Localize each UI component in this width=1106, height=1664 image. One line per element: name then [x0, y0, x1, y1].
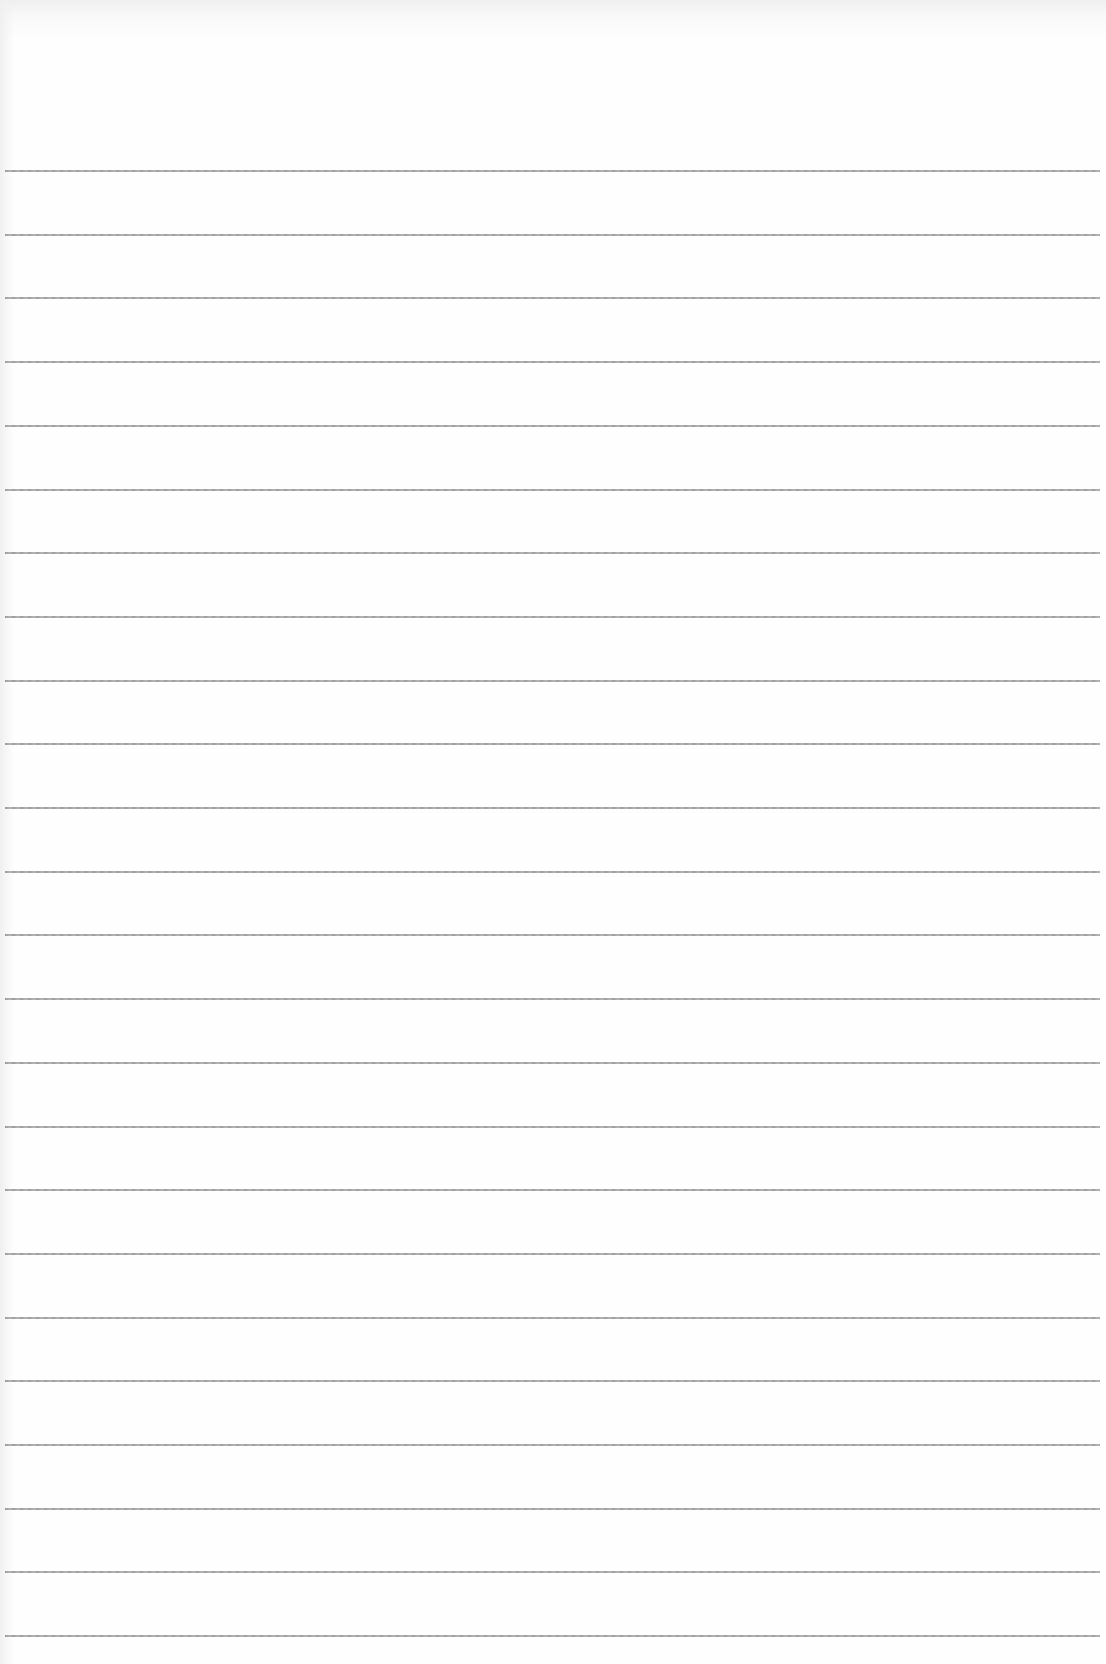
scan-top-shadow	[0, 0, 1106, 40]
scan-left-shadow	[0, 0, 14, 1664]
ruled-line	[5, 489, 1100, 491]
ruled-line	[5, 297, 1100, 299]
ruled-line	[5, 1253, 1100, 1255]
ruled-line	[5, 170, 1100, 172]
ruled-line	[5, 361, 1100, 363]
ruled-line	[5, 425, 1100, 427]
ruled-line	[5, 934, 1100, 936]
ruled-line	[5, 1380, 1100, 1382]
ruled-line	[5, 1126, 1100, 1128]
ruled-line	[5, 807, 1100, 809]
ruled-line	[5, 1444, 1100, 1446]
ruled-line	[5, 1062, 1100, 1064]
ruled-line	[5, 743, 1100, 745]
ruled-line	[5, 1508, 1100, 1510]
lined-paper-sheet	[0, 0, 1106, 1664]
ruled-line	[5, 616, 1100, 618]
ruled-line	[5, 1635, 1100, 1637]
ruled-line	[5, 1189, 1100, 1191]
ruled-line	[5, 552, 1100, 554]
ruled-line	[5, 871, 1100, 873]
ruled-line	[5, 1317, 1100, 1319]
ruled-line	[5, 1571, 1100, 1573]
ruled-line	[5, 998, 1100, 1000]
ruled-line	[5, 680, 1100, 682]
ruled-line	[5, 234, 1100, 236]
